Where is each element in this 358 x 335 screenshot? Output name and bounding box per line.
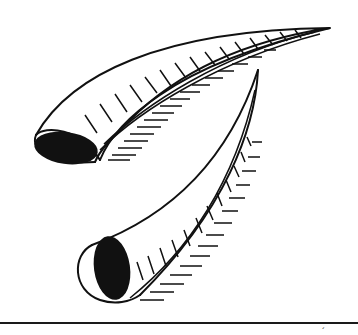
upper-horn-hatching <box>85 30 320 160</box>
lower-horn-hatching <box>130 90 262 300</box>
horns-illustration <box>0 0 358 335</box>
bottom-rule <box>0 322 358 324</box>
footer-mark: ´ <box>322 326 325 335</box>
